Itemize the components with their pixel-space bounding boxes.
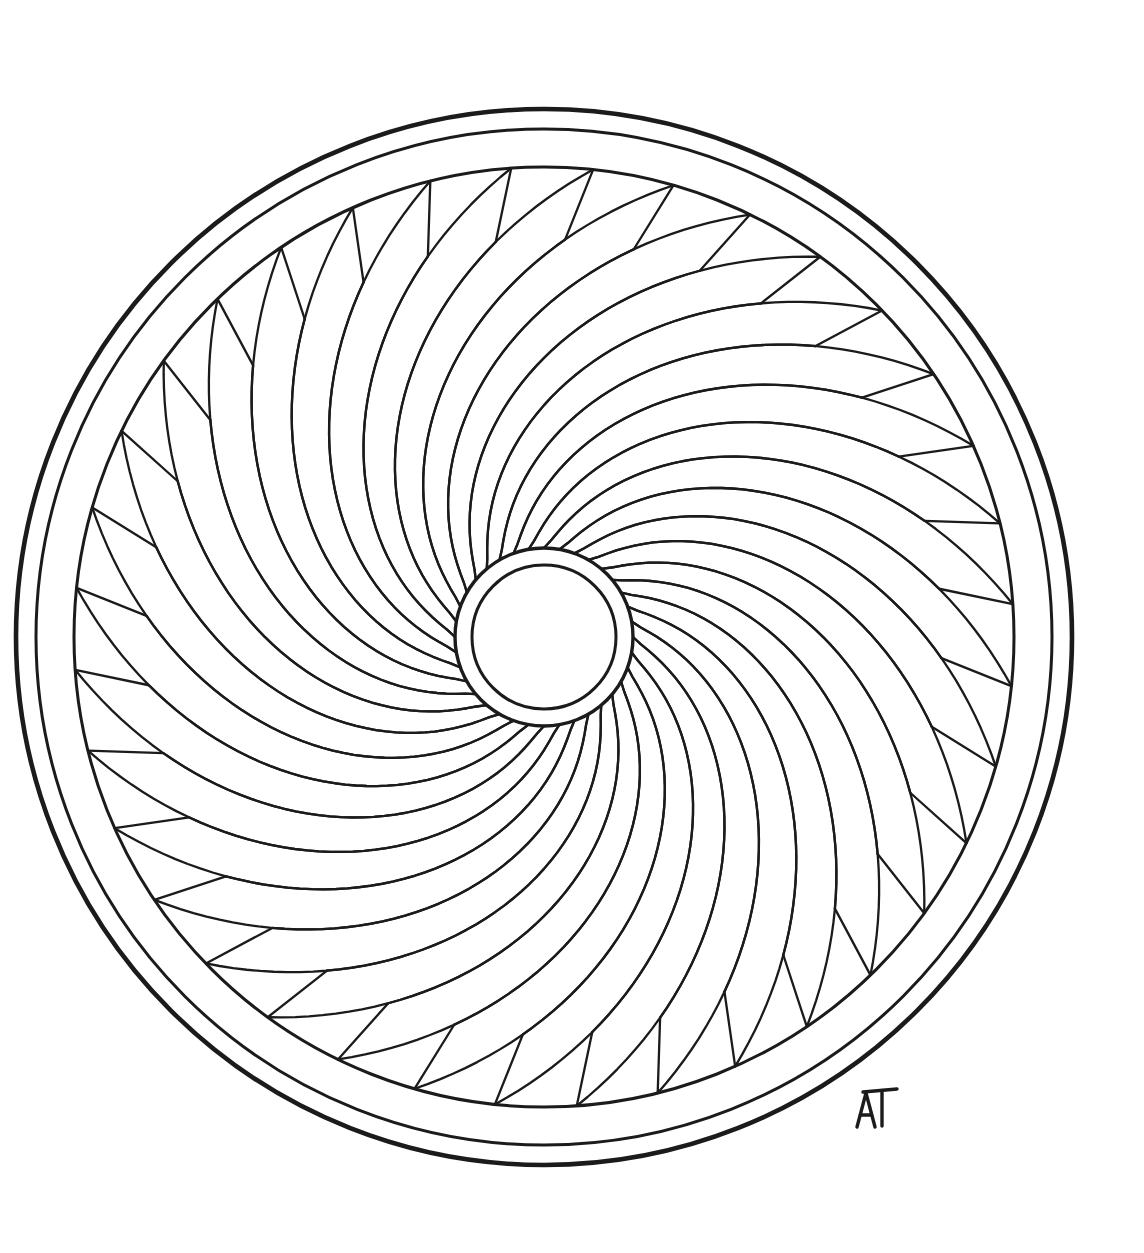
coloring-page-artboard bbox=[0, 0, 1144, 1253]
mandala-drawing bbox=[0, 0, 1144, 1253]
